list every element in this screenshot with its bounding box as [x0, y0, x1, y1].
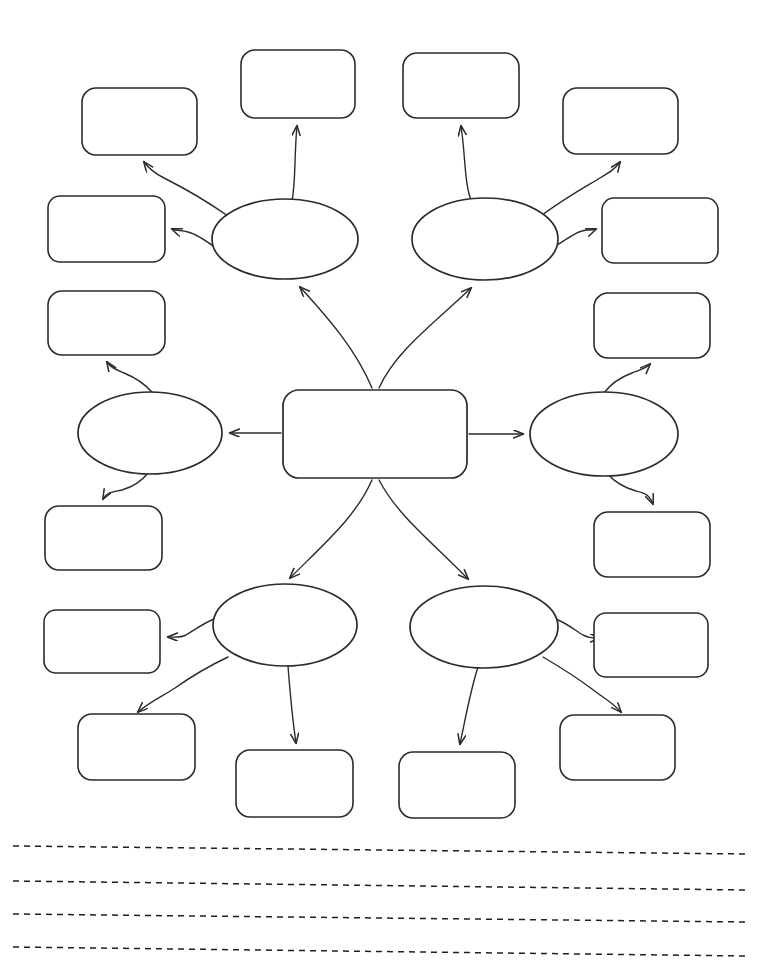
- arrow-oval-top-left-to-box-left-side: [172, 229, 216, 248]
- box-left-side-upper[interactable]: [48, 196, 165, 262]
- oval-bottom-right[interactable]: [410, 586, 558, 668]
- box-bottom-center-left[interactable]: [236, 750, 353, 817]
- center-topic-node[interactable]: [283, 390, 467, 478]
- oval-top-right[interactable]: [412, 198, 558, 280]
- arrow-oval-middle-left-to-box-lower: [103, 473, 148, 499]
- box-upper-left-outer[interactable]: [82, 88, 197, 155]
- arrow-oval-top-right-to-box-top: [461, 126, 472, 203]
- box-left-side-lower[interactable]: [45, 506, 162, 570]
- arrow-center-to-oval-top-left: [300, 287, 372, 388]
- writing-lines: [13, 846, 746, 956]
- box-top-right-upper[interactable]: [403, 53, 519, 118]
- concept-map-canvas: [0, 0, 767, 972]
- box-bottom-right-outer[interactable]: [560, 715, 675, 780]
- arrow-oval-middle-right-to-box-upper: [604, 364, 650, 393]
- oval-top-left[interactable]: [212, 199, 358, 279]
- box-right-side-lower[interactable]: [594, 512, 710, 577]
- box-right-side-upper[interactable]: [602, 198, 718, 263]
- box-lower-right-outer[interactable]: [594, 613, 708, 677]
- oval-middle-left[interactable]: [78, 392, 222, 474]
- arrow-oval-bottom-left-to-box-left: [168, 619, 214, 637]
- box-lower-left-outer[interactable]: [44, 610, 160, 673]
- arrow-center-to-oval-top-right: [379, 288, 471, 388]
- arrow-oval-top-left-to-box-top: [292, 126, 297, 201]
- writing-line-1[interactable]: [13, 846, 746, 854]
- box-top-left-upper[interactable]: [241, 50, 355, 118]
- arrow-oval-top-right-to-box-right-side: [554, 229, 596, 247]
- writing-line-2[interactable]: [13, 881, 746, 890]
- arrow-oval-bottom-left-to-box-center: [288, 666, 296, 743]
- worksheet-page: [0, 0, 767, 972]
- arrow-center-to-oval-bottom-right: [379, 480, 468, 579]
- oval-bottom-left[interactable]: [213, 584, 357, 666]
- arrow-center-to-oval-bottom-left: [290, 480, 372, 578]
- oval-middle-right[interactable]: [530, 392, 678, 476]
- box-left-side-middle[interactable]: [48, 291, 165, 355]
- arrow-oval-middle-right-to-box-lower: [608, 474, 653, 504]
- arrow-oval-middle-left-to-box-upper: [107, 362, 153, 393]
- writing-line-3[interactable]: [13, 914, 746, 922]
- box-bottom-left-outer[interactable]: [78, 714, 195, 780]
- arrow-oval-bottom-right-to-box-center: [460, 667, 478, 744]
- box-right-side-middle[interactable]: [594, 293, 710, 358]
- writing-line-4[interactable]: [13, 947, 746, 956]
- box-bottom-center-right[interactable]: [399, 752, 515, 818]
- box-upper-right-outer[interactable]: [563, 88, 678, 154]
